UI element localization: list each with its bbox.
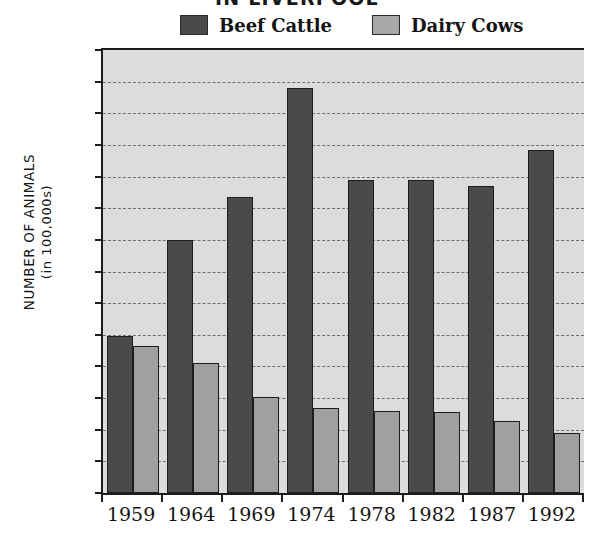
x-tick-mark	[402, 493, 404, 502]
plot-area: 01234567891011121314	[101, 48, 584, 495]
legend-entry-beef-cattle: Beef Cattle	[180, 12, 332, 38]
bar-group	[283, 50, 343, 493]
x-tick-mark	[101, 493, 103, 502]
legend-label-beef-cattle: Beef Cattle	[219, 15, 332, 36]
bar-dairy-cows-1969	[253, 397, 279, 494]
y-tick-mark	[95, 365, 103, 367]
bar-beef-cattle-1969	[227, 197, 253, 493]
y-tick-mark	[95, 239, 103, 241]
bar-group	[103, 50, 163, 493]
bar-chart: IN LIVERPOOL Beef Cattle Dairy Cows NUMB…	[0, 0, 594, 542]
bar-group	[344, 50, 404, 493]
bar-group	[464, 50, 524, 493]
y-tick-mark	[95, 397, 103, 399]
x-tick-mark	[522, 493, 524, 502]
legend-swatch-beef-cattle	[180, 15, 208, 35]
x-tick-mark	[281, 493, 283, 502]
bar-group	[163, 50, 223, 493]
y-tick-mark	[95, 81, 103, 83]
legend-label-dairy-cows: Dairy Cows	[411, 15, 523, 36]
bar-group	[223, 50, 283, 493]
y-tick-mark	[95, 271, 103, 273]
bar-dairy-cows-1978	[374, 411, 400, 493]
legend-entry-dairy-cows: Dairy Cows	[372, 12, 523, 38]
bar-dairy-cows-1987	[494, 421, 520, 493]
bar-group	[404, 50, 464, 493]
x-tick-mark	[161, 493, 163, 502]
bar-dairy-cows-1959	[133, 346, 159, 493]
bar-beef-cattle-1978	[348, 180, 374, 493]
chart-legend: Beef Cattle Dairy Cows	[0, 12, 594, 38]
legend-swatch-dairy-cows	[372, 15, 400, 35]
y-tick-mark	[95, 49, 103, 51]
x-tick-mark	[462, 493, 464, 502]
x-tick-mark	[582, 493, 584, 502]
x-tick-mark	[342, 493, 344, 502]
bar-dairy-cows-1964	[193, 363, 219, 493]
bar-group	[524, 50, 584, 493]
x-axis: 19591964196919741978198219871992	[101, 493, 584, 533]
y-axis-title-line-2: (in 100,000s)	[38, 122, 55, 342]
y-tick-mark	[95, 429, 103, 431]
y-tick-mark	[95, 460, 103, 462]
y-tick-mark	[95, 112, 103, 114]
x-tick-mark	[221, 493, 223, 502]
y-axis-title-line-1: NUMBER OF ANIMALS	[21, 122, 38, 342]
bar-beef-cattle-1974	[287, 88, 313, 493]
bar-dairy-cows-1974	[313, 408, 339, 493]
bar-dairy-cows-1982	[434, 412, 460, 493]
chart-title: IN LIVERPOOL	[0, 0, 594, 7]
x-tick-label-1992: 1992	[517, 503, 587, 525]
y-tick-mark	[95, 144, 103, 146]
bar-beef-cattle-1982	[408, 180, 434, 493]
y-tick-mark	[95, 207, 103, 209]
bar-beef-cattle-1964	[167, 240, 193, 493]
y-axis-title: NUMBER OF ANIMALS (in 100,000s)	[21, 122, 55, 342]
bar-beef-cattle-1992	[528, 150, 554, 493]
bar-beef-cattle-1987	[468, 186, 494, 493]
y-tick-mark	[95, 302, 103, 304]
y-tick-mark	[95, 176, 103, 178]
bar-beef-cattle-1959	[107, 336, 133, 493]
y-tick-mark	[95, 334, 103, 336]
bar-dairy-cows-1992	[554, 433, 580, 493]
